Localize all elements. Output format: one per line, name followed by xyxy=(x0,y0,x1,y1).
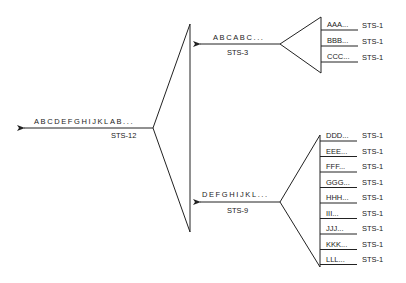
input-label: AAA... xyxy=(327,20,348,29)
input-label: FFF... xyxy=(326,162,345,171)
top-mux-triangle xyxy=(280,17,321,73)
top-output-rate: STS-3 xyxy=(227,48,248,57)
input-rate: STS-1 xyxy=(362,209,383,218)
bottom-input-8: LLL... STS-1 xyxy=(320,255,383,265)
input-rate: STS-1 xyxy=(362,53,383,62)
top-input-2: CCC... STS-1 xyxy=(321,52,383,62)
bottom-multiplexer: DEFGHIJKL... STS-9 DDD... STS-1 EEE... S… xyxy=(200,131,383,267)
input-label: GGG... xyxy=(326,178,350,187)
input-rate: STS-1 xyxy=(362,131,383,140)
input-rate: STS-1 xyxy=(362,21,383,30)
bottom-input-0: DDD... STS-1 xyxy=(320,131,383,141)
main-mux-triangle xyxy=(153,24,190,232)
input-label: CCC... xyxy=(327,52,350,61)
main-output-rate: STS-12 xyxy=(111,131,136,140)
input-rate: STS-1 xyxy=(362,147,383,156)
main-multiplexer xyxy=(153,24,190,232)
bottom-input-1: EEE... STS-1 xyxy=(320,147,383,157)
input-rate: STS-1 xyxy=(362,193,383,202)
input-label: HHH... xyxy=(326,193,349,202)
input-rate: STS-1 xyxy=(362,37,383,46)
input-label: KKK... xyxy=(326,240,347,249)
multiplexing-diagram: ABCDEFGHIJKLAB... STS-12 ABCABC... STS-3… xyxy=(0,0,406,283)
input-label: LLL... xyxy=(326,255,345,264)
bottom-output-stream: DEFGHIJKL... xyxy=(202,190,269,199)
main-output: ABCDEFGHIJKLAB... STS-12 xyxy=(24,117,153,140)
input-label: BBB... xyxy=(327,36,348,45)
bottom-input-7: KKK... STS-1 xyxy=(320,240,383,250)
input-rate: STS-1 xyxy=(362,178,383,187)
bottom-input-2: FFF... STS-1 xyxy=(320,162,383,172)
input-label: JJJ... xyxy=(326,224,344,233)
input-rate: STS-1 xyxy=(362,240,383,249)
top-input-0: AAA... STS-1 xyxy=(321,20,383,30)
top-multiplexer: ABCABC... STS-3 AAA... STS-1 BBB... STS-… xyxy=(200,17,383,73)
bottom-input-4: HHH... STS-1 xyxy=(320,193,383,203)
bottom-input-5: III... STS-1 xyxy=(320,209,383,219)
input-label: EEE... xyxy=(326,147,347,156)
top-output-stream: ABCABC... xyxy=(213,33,265,42)
input-rate: STS-1 xyxy=(362,224,383,233)
bottom-input-3: GGG... STS-1 xyxy=(320,178,383,188)
bottom-output-rate: STS-9 xyxy=(227,206,248,215)
input-rate: STS-1 xyxy=(362,162,383,171)
bottom-input-6: JJJ... STS-1 xyxy=(320,224,383,234)
input-label: DDD... xyxy=(326,131,349,140)
input-label: III... xyxy=(326,209,339,218)
top-input-1: BBB... STS-1 xyxy=(321,36,383,46)
main-output-stream: ABCDEFGHIJKLAB... xyxy=(34,117,134,126)
input-rate: STS-1 xyxy=(362,255,383,264)
bottom-mux-triangle xyxy=(280,135,320,267)
